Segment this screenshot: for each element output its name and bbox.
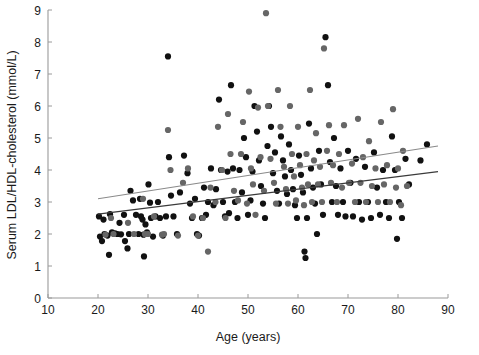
- data-point: [363, 199, 369, 205]
- x-tick-label: 80: [391, 303, 405, 317]
- data-point: [157, 215, 163, 221]
- data-point: [281, 164, 287, 170]
- data-point: [320, 212, 326, 218]
- data-point: [187, 201, 193, 207]
- data-point: [384, 162, 390, 168]
- y-tick-label: 3: [34, 196, 41, 210]
- data-point: [424, 141, 430, 147]
- data-point: [205, 249, 211, 255]
- data-point: [303, 151, 309, 157]
- data-point: [215, 124, 221, 130]
- data-point: [175, 233, 181, 239]
- data-point: [142, 221, 148, 227]
- data-point: [165, 127, 171, 133]
- y-tick-label: 9: [34, 4, 41, 18]
- data-point: [230, 165, 236, 171]
- data-point: [151, 213, 157, 219]
- data-point: [305, 181, 311, 187]
- data-point: [225, 111, 231, 117]
- data-point: [319, 199, 325, 205]
- data-point: [345, 148, 351, 154]
- data-point: [296, 153, 302, 159]
- data-point: [122, 238, 128, 244]
- data-point: [231, 188, 237, 194]
- y-tick-label: 0: [34, 292, 41, 306]
- data-point: [322, 34, 328, 40]
- data-point: [263, 10, 269, 16]
- data-point: [334, 199, 340, 205]
- y-tick-label: 5: [34, 132, 41, 146]
- data-point: [393, 185, 399, 191]
- y-tick-label: 4: [34, 164, 41, 178]
- data-point: [394, 236, 400, 242]
- data-point: [195, 233, 201, 239]
- data-point: [314, 231, 320, 237]
- data-point: [324, 148, 330, 154]
- data-point: [304, 215, 310, 221]
- data-point: [378, 119, 384, 125]
- data-point: [166, 154, 172, 160]
- data-point: [222, 215, 228, 221]
- data-point: [190, 213, 196, 219]
- data-point: [375, 199, 381, 205]
- data-point: [130, 197, 136, 203]
- data-point: [208, 165, 214, 171]
- data-point: [238, 151, 244, 157]
- data-point: [359, 217, 365, 223]
- data-point: [287, 103, 293, 109]
- data-point: [295, 124, 301, 130]
- data-point: [165, 53, 171, 59]
- data-point: [141, 253, 147, 259]
- data-point: [335, 212, 341, 218]
- data-point: [235, 197, 241, 203]
- data-point: [236, 167, 242, 173]
- data-point: [118, 231, 124, 237]
- data-point: [245, 212, 251, 218]
- data-point: [299, 185, 305, 191]
- x-tick-label: 30: [141, 303, 155, 317]
- data-point: [331, 135, 337, 141]
- data-point: [398, 202, 404, 208]
- data-point: [274, 188, 280, 194]
- data-point: [250, 181, 256, 187]
- data-point: [168, 193, 174, 199]
- data-point: [260, 201, 266, 207]
- data-point: [402, 156, 408, 162]
- tick-labels: 1020304050607080900123456789: [34, 4, 455, 318]
- data-point: [254, 129, 260, 135]
- x-tick-label: 60: [291, 303, 305, 317]
- data-point: [350, 213, 356, 219]
- data-point: [395, 165, 401, 171]
- y-tick-label: 6: [34, 100, 41, 114]
- data-point: [257, 154, 263, 160]
- data-point: [262, 215, 268, 221]
- data-point: [340, 199, 346, 205]
- data-point: [108, 215, 114, 221]
- data-point: [417, 157, 423, 163]
- data-point: [289, 151, 295, 157]
- y-tick-label: 7: [34, 68, 41, 82]
- data-point: [386, 215, 392, 221]
- upper-trend-line: [98, 146, 438, 199]
- data-point: [228, 82, 234, 88]
- data-point: [201, 185, 207, 191]
- data-point: [110, 231, 116, 237]
- data-point: [285, 201, 291, 207]
- data-point: [161, 231, 167, 237]
- data-point: [349, 161, 355, 167]
- data-point: [248, 165, 254, 171]
- data-point: [387, 199, 393, 205]
- data-point: [241, 135, 247, 141]
- data-point: [306, 121, 312, 127]
- data-point: [293, 197, 299, 203]
- data-point: [192, 196, 198, 202]
- data-point: [246, 89, 252, 95]
- data-point: [220, 199, 226, 205]
- data-point: [404, 183, 410, 189]
- data-point: [278, 133, 284, 139]
- data-point: [366, 138, 372, 144]
- data-point: [301, 249, 307, 255]
- x-tick-label: 20: [91, 303, 105, 317]
- data-point: [200, 215, 206, 221]
- data-point: [273, 201, 279, 207]
